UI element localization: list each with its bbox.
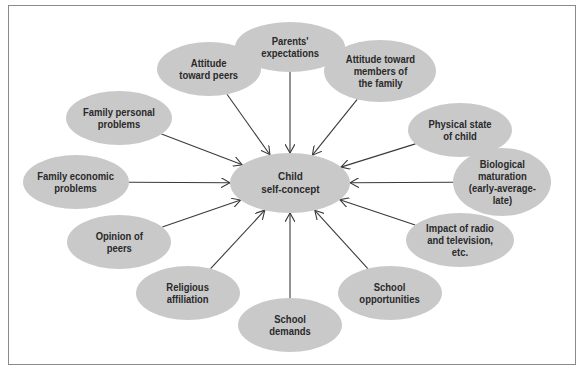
arrow-biological-maturation (350, 182, 453, 183)
node-religious-affiliation: Religious affiliation (136, 266, 240, 320)
node-school-opportunities: School opportunities (338, 266, 442, 320)
node-family-economic-problems: Family economic problems (23, 155, 129, 209)
arrow-religious-affiliation (211, 210, 265, 269)
node-family-personal-problems-label: Family personal problems (83, 106, 155, 130)
node-family-personal-problems: Family personal problems (66, 91, 172, 145)
node-attitude-toward-peers-label: Attitude toward peers (180, 57, 239, 81)
node-school-opportunities-label: School opportunities (360, 281, 420, 305)
node-attitude-toward-peers: Attitude toward peers (157, 42, 261, 96)
node-physical-state-label: Physical state of child (428, 118, 491, 142)
arrow-physical-state (341, 144, 416, 167)
arrow-family-economic-problems (129, 182, 230, 183)
node-biological-maturation: Biological maturation (early-average- la… (453, 148, 551, 216)
arrow-family-personal-problems (162, 134, 243, 165)
node-religious-affiliation-label: Religious affiliation (167, 281, 210, 305)
arrow-attitude-toward-peers (227, 94, 270, 154)
node-attitude-toward-family: Attitude toward members of the family (324, 40, 436, 102)
node-family-economic-problems-label: Family economic problems (38, 170, 115, 194)
node-school-demands: School demands (238, 298, 342, 352)
node-impact-radio-tv-label: Impact of radio and television, etc. (419, 222, 502, 258)
node-biological-maturation-label: Biological maturation (early-average- la… (468, 158, 535, 206)
node-opinion-of-peers: Opinion of peers (67, 215, 171, 269)
node-attitude-toward-family-label: Attitude toward members of the family (345, 53, 414, 89)
node-impact-radio-tv: Impact of radio and television, etc. (406, 213, 514, 267)
arrow-impact-radio-tv (340, 200, 415, 225)
arrow-school-opportunities (315, 210, 368, 268)
node-child-self-concept-label: Child self-concept (261, 170, 319, 196)
node-child-self-concept: Child self-concept (230, 153, 350, 213)
arrow-opinion-of-peers (162, 200, 240, 227)
arrow-attitude-toward-family (312, 99, 357, 155)
node-school-demands-label: School demands (269, 313, 310, 337)
node-opinion-of-peers-label: Opinion of peers (95, 230, 142, 254)
node-parents-expectations-label: Parents' expectations (261, 35, 319, 59)
